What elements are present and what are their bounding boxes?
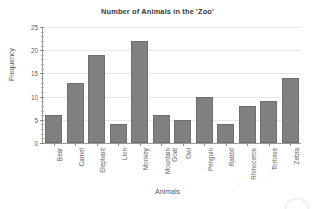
bar bbox=[67, 83, 84, 143]
y-axis-tick-major bbox=[40, 50, 44, 51]
bar bbox=[260, 101, 277, 143]
x-axis-title: Animals bbox=[0, 188, 315, 195]
y-axis-tick-label: 5 bbox=[34, 116, 38, 123]
y-axis-tick-major bbox=[40, 27, 44, 28]
y-axis-tick-minor bbox=[41, 64, 44, 65]
y-axis-tick-minor bbox=[41, 115, 44, 116]
bar bbox=[153, 115, 170, 143]
y-axis-tick-minor bbox=[41, 59, 44, 60]
x-axis-tick-label: Camel bbox=[78, 148, 85, 166]
x-axis-tick bbox=[290, 143, 291, 146]
y-axis-tick-major bbox=[40, 73, 44, 74]
y-axis-tick-major bbox=[40, 120, 44, 121]
x-axis-tick-label: Penguin bbox=[207, 148, 214, 171]
y-axis-tick-minor bbox=[41, 41, 44, 42]
y-axis-tick-label: 0 bbox=[34, 140, 38, 147]
bar bbox=[239, 106, 256, 143]
x-axis-tick bbox=[226, 143, 227, 146]
bar-chart-figure: Number of Animals in the 'Zoo' Frequency… bbox=[0, 0, 315, 209]
x-axis-tick-label: Monkey bbox=[142, 148, 149, 170]
y-axis-tick-minor bbox=[41, 32, 44, 33]
x-axis-tick bbox=[161, 143, 162, 146]
x-axis-tick-label: Owl bbox=[185, 148, 192, 159]
bar bbox=[217, 124, 234, 143]
x-axis-tick bbox=[269, 143, 270, 146]
y-axis-tick-label: 20 bbox=[31, 47, 38, 54]
y-axis-tick-minor bbox=[41, 83, 44, 84]
y-axis-tick-minor bbox=[41, 87, 44, 88]
corner-arc-artifact bbox=[285, 198, 309, 209]
y-axis-tick-label: 25 bbox=[31, 24, 38, 31]
x-axis-tick bbox=[140, 143, 141, 146]
y-axis-tick-minor bbox=[41, 78, 44, 79]
bar bbox=[131, 41, 148, 143]
y-axis-tick-major bbox=[40, 97, 44, 98]
stray-mark-artifact: r bbox=[239, 181, 241, 187]
bar bbox=[110, 124, 127, 143]
bar bbox=[174, 120, 191, 143]
y-axis-tick-minor bbox=[41, 138, 44, 139]
gridline bbox=[43, 73, 301, 74]
x-axis-tick-label: Lion bbox=[121, 148, 128, 160]
y-axis-tick-minor bbox=[41, 111, 44, 112]
y-axis-tick-minor bbox=[41, 46, 44, 47]
y-axis-tick-minor bbox=[41, 134, 44, 135]
x-axis-tick bbox=[97, 143, 98, 146]
x-axis-tick bbox=[204, 143, 205, 146]
x-axis-tick bbox=[75, 143, 76, 146]
y-axis-tick-minor bbox=[41, 101, 44, 102]
x-axis-tick-label: Tortoise bbox=[271, 148, 278, 170]
x-axis-tick-label: Rhinoceros bbox=[250, 148, 257, 180]
y-axis-tick-minor bbox=[41, 36, 44, 37]
y-axis-tick-minor bbox=[41, 92, 44, 93]
x-axis-tick-label: Mountain Goat bbox=[164, 148, 178, 182]
y-axis-tick-minor bbox=[41, 69, 44, 70]
bar bbox=[282, 78, 299, 143]
bar bbox=[45, 115, 62, 143]
y-axis-tick-minor bbox=[41, 124, 44, 125]
y-axis-title: Frequency bbox=[8, 30, 15, 100]
bar bbox=[196, 97, 213, 143]
x-axis-tick bbox=[118, 143, 119, 146]
gridline bbox=[43, 27, 301, 28]
y-axis-tick-major bbox=[40, 143, 44, 144]
x-axis-tick-label: Elephant bbox=[99, 148, 106, 173]
x-axis-tick-label: Rabbit bbox=[228, 148, 235, 166]
x-axis-tick-label: Bear bbox=[56, 148, 63, 161]
plot-area: 0510152025 BearCamelElephantLionMonkeyMo… bbox=[42, 27, 301, 144]
x-axis-tick-label: Zebra bbox=[293, 148, 300, 164]
gridline bbox=[43, 50, 301, 51]
x-axis-tick bbox=[247, 143, 248, 146]
x-axis-tick bbox=[183, 143, 184, 146]
y-axis-tick-label: 10 bbox=[31, 93, 38, 100]
bar bbox=[88, 55, 105, 143]
y-axis-tick-minor bbox=[41, 106, 44, 107]
y-axis-tick-minor bbox=[41, 55, 44, 56]
y-axis-tick-minor bbox=[41, 129, 44, 130]
y-axis-tick-label: 15 bbox=[31, 70, 38, 77]
x-axis-tick bbox=[54, 143, 55, 146]
chart-title: Number of Animals in the 'Zoo' bbox=[0, 7, 315, 16]
